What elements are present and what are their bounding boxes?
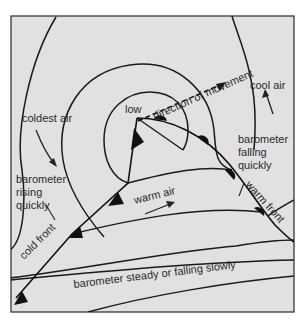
- low-label: low: [125, 103, 142, 115]
- barometer-falling-line2: falling: [238, 146, 267, 158]
- coldest-air-label: coldest air: [22, 112, 72, 124]
- weather-front-diagram: low direction of movement coldest air co…: [0, 0, 306, 324]
- barometer-falling-line3: quickly: [238, 159, 272, 171]
- cool-air-label: cool air: [250, 79, 286, 91]
- barometer-falling-line1: barometer: [238, 133, 288, 145]
- barometer-rising-line2: rising: [16, 186, 42, 198]
- barometer-rising-line1: barometer: [16, 173, 66, 185]
- barometer-rising-line3: quickly: [16, 199, 50, 211]
